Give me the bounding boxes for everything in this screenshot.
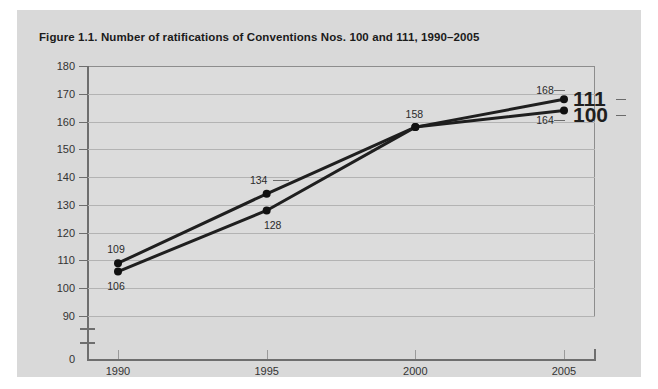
point-label-100-1995: 128: [264, 219, 282, 231]
series-lines: [17, 10, 641, 377]
data-point-marker: [114, 259, 122, 267]
series-label-tick: [616, 99, 626, 100]
data-point-marker: [560, 95, 568, 103]
label-leader-line: [273, 180, 289, 181]
series-line-111: [118, 99, 564, 263]
figure-card: Figure 1.1. Number of ratifications of C…: [17, 10, 641, 377]
data-point-marker: [263, 190, 271, 198]
data-point-marker: [114, 268, 122, 276]
point-label-111-2005: 168: [536, 84, 554, 96]
data-point-marker: [263, 206, 271, 214]
chart-plot: 180170160150140130120110100900 199019952…: [17, 10, 641, 377]
series-label-tick: [616, 115, 626, 116]
point-label-100-2005: 164: [536, 114, 554, 126]
point-label-2000: 158: [406, 108, 424, 120]
label-leader-line: [554, 90, 565, 91]
point-label-111-1990: 109: [107, 243, 125, 255]
point-label-111-1995: 134: [250, 174, 268, 186]
series-label-100: 100: [573, 103, 608, 127]
data-point-marker: [411, 123, 419, 131]
point-label-100-1990: 106: [107, 280, 125, 292]
label-leader-line: [554, 120, 565, 121]
data-point-marker: [560, 106, 568, 114]
series-line-100: [118, 110, 564, 271]
